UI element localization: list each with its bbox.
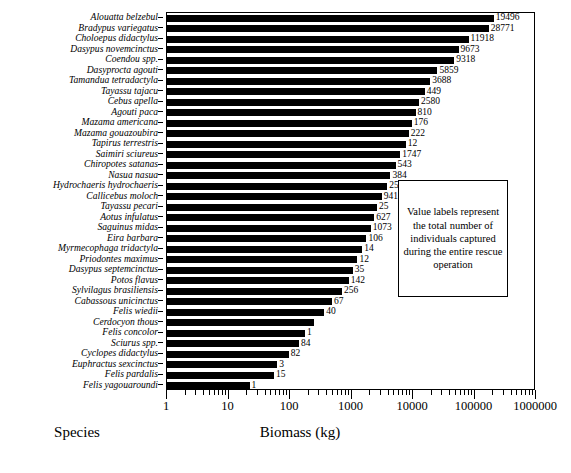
bar-value-label: 9673 [461, 45, 480, 55]
bar-value-label: 25 [379, 202, 389, 212]
species-axis-labels: Alouatta belzebulBradypus variegatusChol… [0, 12, 162, 390]
species-label: Saguinus midas [98, 222, 159, 232]
x-minor-tick [222, 390, 223, 395]
x-minor-tick [318, 390, 319, 395]
category-tick [158, 17, 163, 18]
bar [167, 99, 419, 106]
x-tick-label: 1 [163, 400, 169, 413]
category-tick [158, 311, 163, 312]
category-tick [158, 164, 163, 165]
category-tick [158, 132, 163, 133]
category-tick [158, 143, 163, 144]
category-tick [158, 59, 163, 60]
bar-value-label: 627 [376, 213, 390, 223]
category-tick [158, 353, 163, 354]
x-minor-tick [332, 390, 333, 395]
x-major-tick [535, 390, 536, 399]
x-minor-tick [246, 390, 247, 395]
x-major-tick [351, 390, 352, 399]
x-minor-tick [326, 390, 327, 395]
x-minor-tick [369, 390, 370, 395]
x-minor-tick [345, 390, 346, 395]
x-tick-label: 100 [280, 400, 299, 413]
species-label: Callicebus moloch [86, 191, 158, 201]
species-label: Eira barbara [107, 233, 158, 243]
x-minor-tick [525, 390, 526, 395]
category-tick [158, 237, 163, 238]
category-tick [158, 332, 163, 333]
species-label: Dasyprocta agouti [87, 65, 158, 75]
x-minor-tick [529, 390, 530, 395]
bar-value-label: 12 [408, 139, 418, 149]
x-tick-label: 100000 [455, 400, 493, 413]
x-minor-tick [283, 390, 284, 395]
x-tick-label: 10000 [396, 400, 427, 413]
x-minor-tick [409, 390, 410, 395]
bar [167, 130, 409, 137]
x-minor-tick [270, 390, 271, 395]
annotation-box: Value labels represent the total number … [398, 180, 508, 297]
x-tick-label: 1000 [338, 400, 363, 413]
bar [167, 15, 494, 22]
bar [167, 256, 357, 263]
bar-value-label: 5859 [439, 66, 458, 76]
x-minor-tick [455, 390, 456, 395]
x-minor-tick [279, 390, 280, 395]
category-tick [158, 342, 163, 343]
category-tick [158, 111, 163, 112]
bar-value-label: 810 [418, 108, 432, 118]
species-label: Coendou spp. [105, 54, 158, 64]
x-minor-tick [195, 390, 196, 395]
bar-value-label: 40 [326, 307, 336, 317]
bar-value-label: 176 [414, 118, 428, 128]
bar [167, 172, 390, 179]
bar [167, 309, 324, 316]
species-label: Tayassu tajacu [101, 86, 158, 96]
bar-value-label: 106 [368, 234, 382, 244]
category-tick [158, 101, 163, 102]
species-label: Felis yagouaroundi [83, 380, 158, 390]
x-minor-tick [503, 390, 504, 395]
category-tick [158, 248, 163, 249]
bar-value-label: 9318 [456, 55, 475, 65]
category-tick [158, 279, 163, 280]
category-tick [158, 174, 163, 175]
bar [167, 36, 469, 43]
x-minor-tick [348, 390, 349, 395]
bar [167, 120, 412, 127]
x-minor-tick [337, 390, 338, 395]
x-minor-tick [449, 390, 450, 395]
biomass-bar-chart: Alouatta belzebulBradypus variegatusChol… [0, 0, 571, 473]
bar [167, 204, 377, 211]
category-tick [158, 80, 163, 81]
bar [167, 109, 416, 116]
category-tick [158, 185, 163, 186]
bar-value-label: 449 [427, 87, 441, 97]
x-minor-tick [511, 390, 512, 395]
species-label: Bradypus variegatus [78, 23, 158, 33]
bar-value-label: 11918 [471, 34, 494, 44]
bar [167, 372, 274, 379]
species-label: Tapirus terrestris [92, 138, 158, 148]
category-tick [158, 300, 163, 301]
x-minor-tick [406, 390, 407, 395]
species-label: Felis concolor [102, 327, 158, 337]
species-label: Nasua nasua [108, 170, 158, 180]
bar-value-label: 222 [411, 129, 425, 139]
x-minor-tick [521, 390, 522, 395]
bar [167, 277, 349, 284]
bar-value-label: 384 [392, 171, 406, 181]
bar [167, 183, 387, 190]
x-major-tick [166, 390, 167, 399]
bar [167, 141, 406, 148]
category-tick [158, 90, 163, 91]
category-tick [158, 374, 163, 375]
bar-value-label: 2580 [421, 97, 440, 107]
bar-value-label: 142 [351, 276, 365, 286]
bar [167, 57, 454, 64]
bar [167, 298, 332, 305]
x-minor-tick [341, 390, 342, 395]
x-minor-tick [275, 390, 276, 395]
bar-value-label: 14 [364, 244, 374, 254]
x-major-tick [228, 390, 229, 399]
